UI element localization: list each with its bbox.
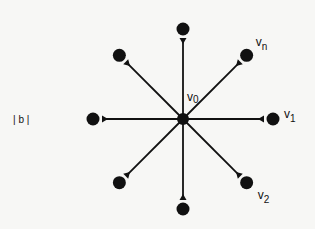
arrowhead xyxy=(123,59,130,66)
spoke-edge xyxy=(126,62,183,119)
arrowhead xyxy=(236,172,243,179)
arrowhead xyxy=(180,194,187,200)
arrowhead xyxy=(102,116,108,123)
figure-label: | b | xyxy=(13,114,29,125)
outer-node xyxy=(177,203,190,216)
node-label: vn xyxy=(256,35,268,52)
outer-node xyxy=(240,176,253,189)
node-label: v2 xyxy=(258,188,270,205)
outer-node xyxy=(87,113,100,126)
outer-node xyxy=(267,113,280,126)
arrowhead xyxy=(180,38,187,44)
spoke-edge xyxy=(183,119,240,176)
arrowhead xyxy=(236,59,243,66)
node-label: v1 xyxy=(284,107,296,124)
outer-node xyxy=(177,23,190,36)
center-label: v0 xyxy=(187,90,199,105)
arrowhead xyxy=(258,116,264,123)
arrowhead xyxy=(123,172,130,179)
star-graph-diagram: | b | vnv1v2 v0 xyxy=(0,0,315,229)
outer-node xyxy=(113,49,126,62)
outer-node xyxy=(113,176,126,189)
center-node xyxy=(177,113,189,125)
spoke-edge xyxy=(126,119,183,176)
outer-node xyxy=(240,49,253,62)
